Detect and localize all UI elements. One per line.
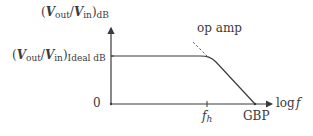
fh-label: fh [202,110,212,124]
gbp-point [254,103,257,106]
origin-point [110,103,112,105]
op-amp-response-curve [111,56,255,104]
curve-label: op amp [197,22,242,34]
gbp-label: GBP [243,110,269,122]
x-axis-label: log f [276,97,300,109]
ideal-level-label: (Vout/Vin)Ideal dB [12,49,106,63]
zero-label: 0 [93,97,101,109]
y-axis-label: (Vout/Vin)dB [41,6,109,20]
